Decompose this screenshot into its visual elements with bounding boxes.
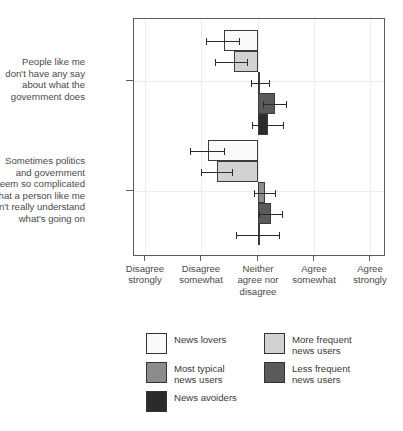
legend-swatch [264,333,285,354]
y-axis-label-line: People like me [0,56,85,68]
y-axis-tick [126,190,133,191]
error-bar [215,62,248,63]
y-axis-tick [126,80,133,81]
legend-label: Less frequent news users [292,362,350,386]
gridline-vertical [370,19,371,255]
x-axis-tick [369,256,370,261]
legend-swatch [146,391,167,412]
x-axis-tick [200,256,201,261]
y-axis-label-line: seem so complicated [0,178,85,190]
y-axis-label-line: and government [0,167,85,179]
y-axis-label-0: People like medon't have any sayabout wh… [0,56,85,102]
legend-item[interactable]: News avoiders [146,391,237,412]
x-axis-tick [313,256,314,261]
y-axis-label-line: don't have any say [0,68,85,80]
x-axis-label-4: Agreestrongly [333,263,403,286]
chart-figure: People like medon't have any sayabout wh… [0,0,403,431]
legend-swatch [146,362,167,383]
legend-label: More frequent news users [292,333,352,357]
error-bar [259,214,283,215]
error-bar [190,151,225,152]
gridline-vertical [145,19,146,255]
legend-swatch [146,333,167,354]
legend-item[interactable]: More frequent news users [264,333,352,357]
y-axis-label-1: Sometimes politicsand governmentseem so … [0,155,85,225]
error-bar [236,235,280,236]
legend-item[interactable]: Most typical news users [146,362,225,386]
y-axis-label-line: that a person like me [0,190,85,202]
x-axis-label-line: Agree [333,263,403,274]
error-bar [206,41,240,42]
error-bar [201,172,233,173]
x-axis-tick [144,256,145,261]
y-axis-label-line: can't really understand [0,201,85,213]
legend-item[interactable]: Less frequent news users [264,362,350,386]
legend-swatch [264,362,285,383]
plot-area [133,18,385,256]
legend-label: News lovers [174,333,226,345]
chart-legend: News loversMore frequent news usersMost … [146,333,376,419]
x-axis-label-line: disagree [221,286,295,297]
error-bar [263,104,287,105]
y-axis-label-line: what's going on [0,213,85,225]
y-axis-label-line: government does [0,91,85,103]
y-axis-label-line: Sometimes politics [0,155,85,167]
legend-label: News avoiders [174,391,237,403]
x-axis-label-line: strongly [333,274,403,285]
gridline-vertical [201,19,202,255]
error-bar [254,193,276,194]
x-axis-tick [257,256,258,261]
error-bar [251,83,270,84]
error-bar [252,125,284,126]
legend-label: Most typical news users [174,362,225,386]
legend-item[interactable]: News lovers [146,333,226,354]
gridline-vertical [314,19,315,255]
y-axis-label-line: about what the [0,79,85,91]
